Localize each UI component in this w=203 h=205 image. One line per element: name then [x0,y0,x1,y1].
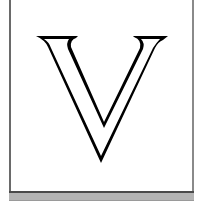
letter-v-icon [0,0,203,205]
bottom-bar [9,191,194,201]
